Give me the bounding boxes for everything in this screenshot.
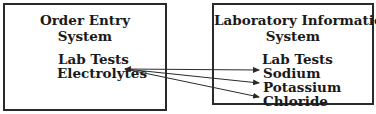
- mapping-arrows: [0, 0, 376, 114]
- arrow-to-potassium: [125, 69, 259, 83]
- arrow-to-chloride: [125, 69, 259, 97]
- arrow-to-sodium: [125, 69, 259, 70]
